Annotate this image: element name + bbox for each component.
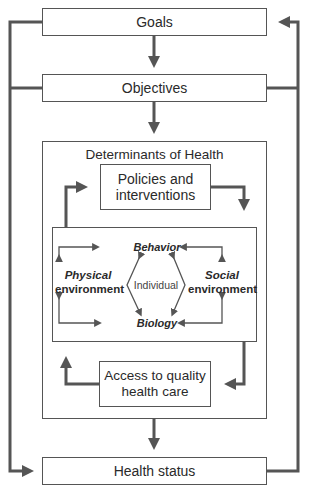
goals-label: Goals (136, 14, 173, 30)
determinants-title: Determinants of Health (85, 147, 223, 163)
behavior-label: Behavior (130, 240, 184, 255)
policies-label-line2: interventions (116, 187, 195, 203)
physical-environment-label: Physical environment (55, 268, 121, 296)
individual-label: Individual (131, 278, 181, 293)
physical-label-line1: Physical (55, 268, 121, 282)
policies-label-line1: Policies and (118, 171, 194, 187)
objectives-label: Objectives (122, 80, 187, 96)
health-status-box: Health status (42, 457, 267, 485)
access-label-line2: health care (122, 384, 189, 400)
objectives-box: Objectives (42, 74, 267, 102)
policies-box: Policies and interventions (100, 164, 211, 210)
access-box: Access to quality health care (99, 361, 211, 407)
physical-label-line2: environment (55, 282, 121, 296)
biology-label: Biology (133, 316, 181, 331)
access-label-line1: Access to quality (104, 368, 205, 384)
social-label-line1: Social (188, 268, 256, 282)
social-label-line2: environment (188, 282, 256, 296)
goals-box: Goals (42, 8, 267, 36)
social-environment-label: Social environment (188, 268, 256, 296)
health-status-label: Health status (114, 463, 196, 479)
